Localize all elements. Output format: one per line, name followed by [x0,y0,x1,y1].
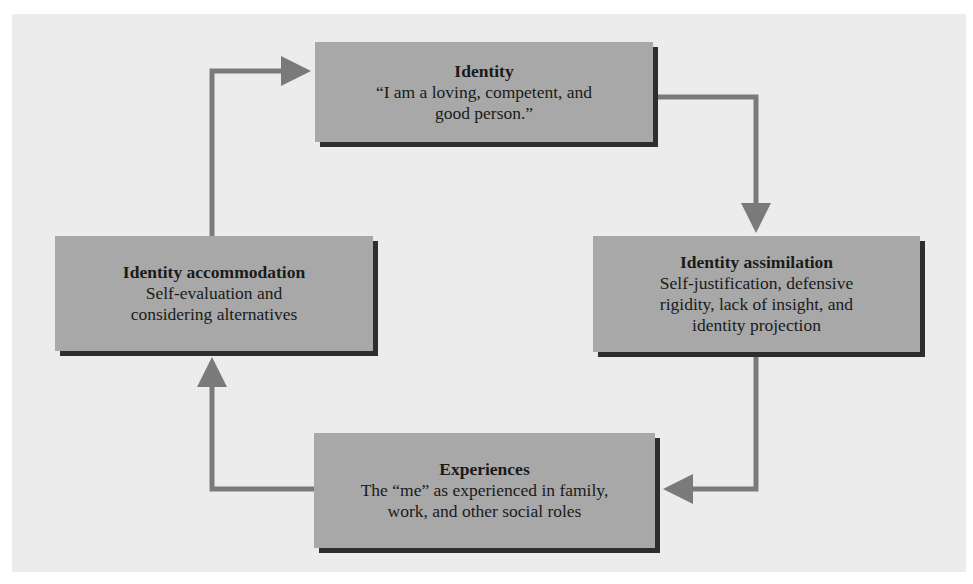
node-identity-accommodation: Identity accommodation Self-evaluation a… [55,236,373,351]
arrow-experiences-to-accommodation-icon [212,362,314,489]
arrow-accommodation-to-identity-icon [212,71,306,236]
node-experiences-title: Experiences [439,459,529,480]
arrow-identity-to-assimilation-icon [658,97,756,228]
node-experiences: Experiences The “me” as experienced in f… [314,433,655,548]
node-experiences-desc: The “me” as experienced in family, work,… [361,480,609,522]
node-accommodation-desc: Self-evaluation and considering alternat… [131,283,298,325]
node-assimilation-title: Identity assimilation [680,252,833,273]
node-assimilation-desc: Self-justification, defensive rigidity, … [660,273,853,336]
arrow-assimilation-to-experiences-icon [668,357,756,489]
node-identity-assimilation: Identity assimilation Self-justification… [593,236,920,352]
node-identity-desc: “I am a loving, competent, and good pers… [376,82,592,124]
node-accommodation-title: Identity accommodation [123,262,305,283]
node-identity: Identity “I am a loving, competent, and … [315,42,653,142]
node-identity-title: Identity [454,61,513,82]
